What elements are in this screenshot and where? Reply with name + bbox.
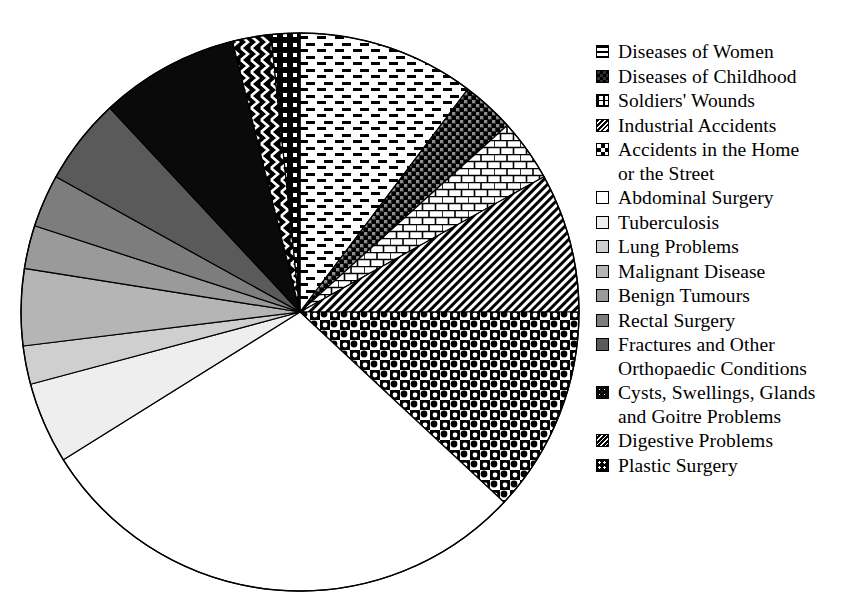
swatch-gray-9a9-icon [596, 289, 609, 302]
pie-chart-figure [0, 0, 600, 616]
legend-item[interactable]: Diseases of Women [596, 40, 858, 64]
swatch-brick-icon [596, 94, 609, 107]
legend-item[interactable]: Abdominal Surgery [596, 186, 858, 210]
legend-item-label: Diseases of Childhood [618, 65, 797, 89]
legend-item[interactable]: Cysts, Swellings, Glands and Goitre Prob… [596, 381, 858, 428]
swatch-dots-on-black-icon [596, 459, 609, 472]
swatch-gray-5a5-icon [596, 338, 609, 351]
legend-item[interactable]: Diseases of Childhood [596, 65, 858, 89]
swatch-gray-cfc-icon [596, 240, 609, 253]
legend-item-label: Digestive Problems [618, 429, 773, 453]
legend-item-label: Diseases of Women [618, 40, 774, 64]
chart-legend: Diseases of WomenDiseases of ChildhoodSo… [596, 40, 858, 478]
swatch-zigzag-icon [596, 434, 609, 447]
legend-item-label: Industrial Accidents [618, 114, 777, 138]
legend-item-label: Accidents in the Home or the Street [618, 138, 799, 185]
swatch-gray-b5b-icon [596, 265, 609, 278]
legend-item-label: Cysts, Swellings, Glands and Goitre Prob… [618, 381, 815, 428]
legend-item[interactable]: Fractures and Other Orthopaedic Conditio… [596, 333, 858, 380]
legend-item[interactable]: Malignant Disease [596, 260, 858, 284]
swatch-bold-checker-icon [596, 143, 609, 156]
legend-item-label: Rectal Surgery [618, 309, 735, 333]
pie-chart-svg [0, 0, 600, 616]
legend-item-label: Malignant Disease [618, 260, 765, 284]
legend-item-label: Abdominal Surgery [618, 186, 774, 210]
legend-item[interactable]: Lung Problems [596, 235, 858, 259]
legend-item-label: Lung Problems [618, 235, 739, 259]
legend-item[interactable]: Rectal Surgery [596, 309, 858, 333]
swatch-white-icon [596, 191, 609, 204]
swatch-gray-7d7-icon [596, 314, 609, 327]
legend-item[interactable]: Tuberculosis [596, 211, 858, 235]
legend-item[interactable]: Accidents in the Home or the Street [596, 138, 858, 185]
legend-item[interactable]: Industrial Accidents [596, 114, 858, 138]
swatch-gray-eee-icon [596, 216, 609, 229]
swatch-black-icon [596, 386, 609, 399]
pie-chart-page: Diseases of WomenDiseases of ChildhoodSo… [0, 0, 858, 616]
legend-item-label: Plastic Surgery [618, 454, 738, 478]
legend-item-label: Soldiers' Wounds [618, 89, 755, 113]
pie-slices-group [21, 33, 579, 591]
legend-item-label: Fractures and Other Orthopaedic Conditio… [618, 333, 807, 380]
legend-item-label: Tuberculosis [618, 211, 719, 235]
legend-item[interactable]: Digestive Problems [596, 429, 858, 453]
legend-item[interactable]: Plastic Surgery [596, 454, 858, 478]
legend-item-label: Benign Tumours [618, 284, 750, 308]
legend-item[interactable]: Benign Tumours [596, 284, 858, 308]
swatch-dark-check-icon [596, 70, 609, 83]
swatch-fine-diagonal-icon [596, 119, 609, 132]
swatch-horizontal-dashes-icon [596, 45, 609, 58]
legend-item[interactable]: Soldiers' Wounds [596, 89, 858, 113]
